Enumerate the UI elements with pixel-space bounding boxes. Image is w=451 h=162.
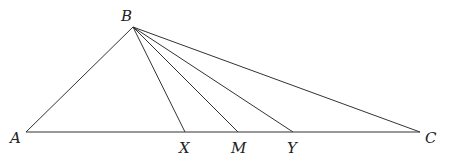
label-m: M	[230, 139, 247, 157]
segment-bc	[133, 27, 420, 132]
point-labels: A B C X M Y	[8, 7, 437, 157]
label-c: C	[425, 129, 437, 147]
label-b: B	[120, 7, 132, 25]
label-x: X	[178, 139, 191, 157]
segments	[26, 27, 420, 132]
triangle-diagram: A B C X M Y	[0, 0, 451, 162]
segment-by	[133, 27, 293, 132]
label-y: Y	[287, 139, 299, 157]
label-a: A	[8, 129, 21, 147]
segment-ab	[26, 27, 133, 132]
segment-bm	[133, 27, 238, 132]
